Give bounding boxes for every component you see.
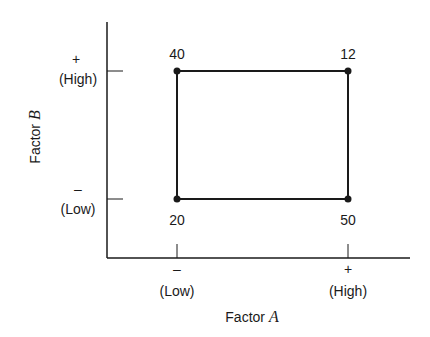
y-high-sign: + [72, 51, 80, 67]
x-axis-title-prefix: Factor [225, 309, 269, 325]
y-low-sign: – [74, 181, 82, 197]
point-low-low [174, 196, 181, 203]
point-high-high [345, 68, 352, 75]
x-high-sign: + [344, 261, 352, 277]
y-axis-title: Factor B [26, 110, 43, 164]
point-high-low [345, 196, 352, 203]
value-high-high: 12 [340, 46, 356, 62]
value-low-low: 20 [169, 212, 185, 228]
y-high-label: (High) [59, 71, 97, 87]
factorial-design-diagram: 40 12 20 50 + (High) – (Low) – (Low) + (… [0, 0, 430, 337]
point-low-high [174, 68, 181, 75]
x-axis-title: Factor A [225, 308, 279, 325]
x-low-label: (Low) [159, 283, 194, 299]
x-axis-title-var: A [268, 308, 279, 325]
y-low-label: (Low) [60, 201, 95, 217]
y-axis-title-prefix: Factor [27, 120, 43, 164]
y-axis-title-var: B [26, 110, 43, 120]
design-square [177, 71, 348, 199]
value-high-low: 50 [340, 212, 356, 228]
x-high-label: (High) [329, 283, 367, 299]
value-low-high: 40 [169, 46, 185, 62]
x-low-sign: – [173, 261, 181, 277]
